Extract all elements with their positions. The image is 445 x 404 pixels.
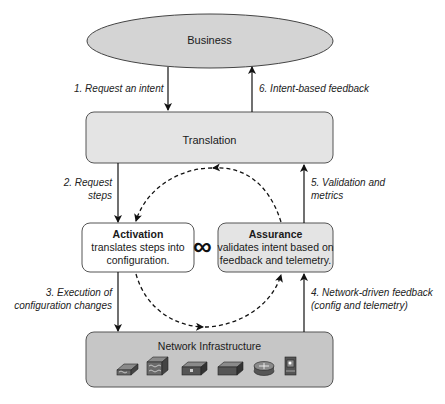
edge-label-network-feedback-line1: 4. Network-driven feedback (311, 286, 433, 299)
edge-label-network-feedback: 4. Network-driven feedback (config and t… (311, 286, 433, 312)
edge-label-network-feedback-line2: (config and telemetry) (311, 299, 433, 312)
server-icon (285, 357, 296, 375)
edge-label-execution-changes: 3. Execution of configuration changes (6, 286, 112, 312)
infinity-loop-icon: ∞ (193, 236, 212, 256)
activation-line2: configuration. (82, 254, 194, 267)
edge-label-execution-changes-line2: configuration changes (6, 299, 112, 312)
loop-arc-left (136, 168, 212, 221)
loop-arc-bottom (136, 274, 203, 327)
multilayer-switch-icon (147, 357, 168, 375)
network-infrastructure-label: Network Infrastructure (86, 340, 333, 353)
activation-text: Activation translates steps into configu… (82, 228, 194, 267)
edge-label-validation-metrics-line1: 5. Validation and (311, 176, 385, 189)
loop-arc-right (205, 275, 281, 327)
edge-label-validation-metrics: 5. Validation and metrics (311, 176, 385, 202)
loop-arc-top (213, 168, 281, 222)
activation-line1: translates steps into (82, 241, 194, 254)
translation-label: Translation (86, 134, 333, 147)
business-label: Business (86, 34, 333, 47)
edge-label-request-steps-line1: 2. Request (60, 176, 112, 189)
edge-label-request-intent: 1. Request an intent (74, 82, 164, 95)
edge-label-request-steps-line2: steps (60, 189, 112, 202)
assurance-text: Assurance validates intent based on feed… (216, 228, 335, 267)
assurance-line2: feedback and telemetry. (216, 254, 335, 267)
edge-label-request-steps: 2. Request steps (60, 176, 112, 202)
switch-icon (218, 362, 243, 375)
edge-label-execution-changes-line1: 3. Execution of (6, 286, 112, 299)
assurance-line1: validates intent based on (216, 241, 335, 254)
activation-title: Activation (82, 228, 194, 241)
router-icon (254, 362, 274, 376)
edge-label-validation-metrics-line2: metrics (311, 189, 385, 202)
firewall-switch-icon (182, 362, 207, 375)
assurance-title: Assurance (216, 228, 335, 241)
edge-label-intent-feedback: 6. Intent-based feedback (259, 82, 369, 95)
